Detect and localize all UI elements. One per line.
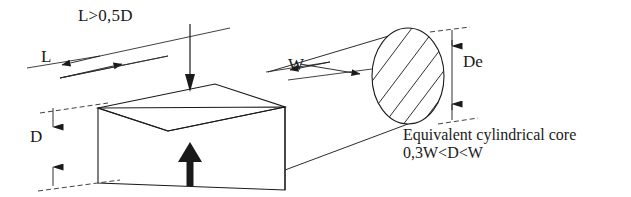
W-arrow-right <box>300 64 360 74</box>
load-arrow-up-icon <box>178 142 202 186</box>
box-top-right-corner <box>168 107 285 131</box>
dimension-W <box>266 62 372 80</box>
condition-label: L>0,5D <box>78 6 133 26</box>
dimension-D <box>38 103 120 191</box>
note-line-1: Equivalent cylindrical core <box>403 126 576 143</box>
L-extension-line-left <box>27 56 100 68</box>
diagram-vector-canvas <box>0 0 631 197</box>
De-extension-bottom <box>438 118 478 124</box>
end-face-ellipse <box>372 28 444 124</box>
dimension-label-L: L <box>41 47 51 67</box>
L-leader-upper <box>100 28 230 56</box>
D-extension-bottom <box>38 180 120 191</box>
L-leader-lower <box>60 56 168 78</box>
dimension-label-D: D <box>30 127 42 147</box>
De-extension-top <box>430 27 470 32</box>
technical-diagram: L>0,5D L D W De Equivalent cylindrical c… <box>0 0 631 197</box>
L-arrow-left <box>62 56 100 65</box>
dimension-label-W: W <box>288 55 304 75</box>
load-arrow-down-icon <box>185 24 195 92</box>
box-front-top-edge <box>98 108 168 131</box>
note-line-2: 0,3W<D<W <box>403 144 576 162</box>
equivalent-core-note: Equivalent cylindrical core 0,3W<D<W <box>403 126 576 163</box>
dimension-L <box>27 28 230 78</box>
dimension-label-De: De <box>463 52 483 72</box>
